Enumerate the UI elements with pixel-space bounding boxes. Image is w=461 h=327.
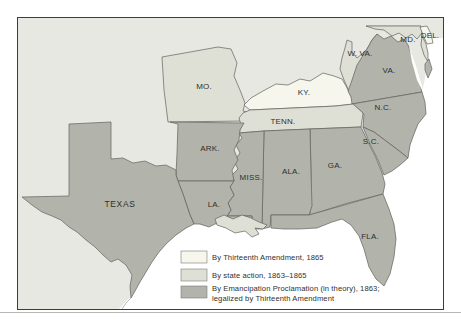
emancipation-map-frame: MO. KY. W. VA. MD. DEL. VA. N.C. TENN. A… <box>17 17 444 310</box>
label-florida: FLA. <box>361 232 379 241</box>
label-south-carolina: S.C. <box>363 137 379 146</box>
label-mississippi: MISS. <box>240 173 263 182</box>
legend-label-state-action: By state action, 1863–1865 <box>212 271 307 280</box>
label-tennessee: TENN. <box>271 117 296 126</box>
emancipation-map: MO. KY. W. VA. MD. DEL. VA. N.C. TENN. A… <box>18 18 443 309</box>
label-north-carolina: N.C. <box>375 103 392 112</box>
label-georgia: GA. <box>328 161 342 170</box>
state-alabama <box>262 129 312 229</box>
label-delaware: DEL. <box>421 31 440 40</box>
page: MO. KY. W. VA. MD. DEL. VA. N.C. TENN. A… <box>0 0 461 327</box>
legend-swatch-emancipation-proclamation <box>181 286 207 298</box>
label-west-virginia: W. VA. <box>347 49 372 58</box>
legend-label-emancipation-line2: legalized by Thirteenth Amendment <box>212 294 335 303</box>
label-alabama: ALA. <box>282 167 300 176</box>
label-louisiana: LA. <box>208 200 221 209</box>
label-virginia: VA. <box>383 66 396 75</box>
label-arkansas: ARK. <box>200 144 219 153</box>
legend-swatch-thirteenth-amendment <box>181 251 207 263</box>
label-maryland: MD. <box>400 35 415 44</box>
legend-label-thirteenth-amendment: By Thirteenth Amendment, 1865 <box>212 253 324 262</box>
legend-label-emancipation-line1: By Emancipation Proclamation (in theory)… <box>212 284 380 293</box>
page-bottom-rule <box>0 312 461 313</box>
legend-swatch-state-action <box>181 269 207 281</box>
label-texas: TEXAS <box>105 199 136 209</box>
label-missouri: MO. <box>196 82 212 91</box>
label-kentucky: KY. <box>298 88 310 97</box>
